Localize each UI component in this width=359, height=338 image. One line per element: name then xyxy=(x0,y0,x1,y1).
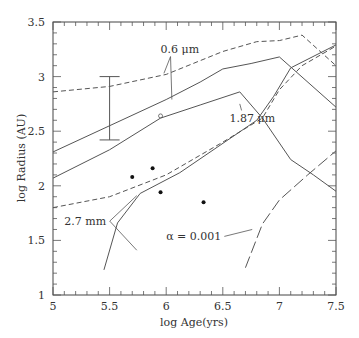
markers-group xyxy=(100,77,206,205)
y-axis-label: log Radius (AU) xyxy=(15,114,28,202)
series-line-2 xyxy=(53,92,336,191)
data-point-filled xyxy=(151,166,155,170)
x-tick-label: 5.5 xyxy=(101,300,119,313)
x-axis-label: log Age(yrs) xyxy=(160,316,228,329)
x-tick-label: 7.5 xyxy=(327,300,345,313)
annotation-label: 2.7 mm xyxy=(64,215,106,228)
data-point-filled xyxy=(202,200,206,204)
y-tick-label: 3.5 xyxy=(28,16,46,29)
series-line-1 xyxy=(53,57,336,152)
annotation-pointer xyxy=(164,57,171,74)
y-tick-label: 1 xyxy=(38,289,45,302)
data-point-open xyxy=(159,114,163,118)
y-tick-label: 3 xyxy=(38,71,45,84)
annotation-pointer xyxy=(171,57,172,100)
y-tick-label: 1.5 xyxy=(28,234,46,247)
y-tick-labels: 11.522.533.5 xyxy=(28,16,46,302)
x-tick-label: 7 xyxy=(276,300,283,313)
series-line-3 xyxy=(53,46,336,208)
annotation-pointer xyxy=(110,196,137,221)
chart: 55.566.577.5 11.522.533.5 log Age(yrs) l… xyxy=(0,0,359,338)
data-point-filled xyxy=(130,175,134,179)
annotation-pointer xyxy=(224,229,252,236)
annotation-label: 0.6 μm xyxy=(161,43,200,56)
annotations-group: 0.6 μm1.87 μm2.7 mmα = 0.001 xyxy=(64,43,275,251)
series-line-5 xyxy=(245,151,336,268)
y-tick-label: 2 xyxy=(38,180,45,193)
x-tick-label: 5 xyxy=(50,300,57,313)
annotation-label: 1.87 μm xyxy=(230,112,276,125)
x-tick-labels: 55.566.577.5 xyxy=(50,300,345,313)
data-point-filled xyxy=(159,190,163,194)
x-tick-label: 6 xyxy=(163,300,170,313)
annotation-label: α = 0.001 xyxy=(166,230,221,243)
y-tick-label: 2.5 xyxy=(28,125,46,138)
x-tick-label: 6.5 xyxy=(214,300,232,313)
annotation-pointer xyxy=(240,104,242,111)
